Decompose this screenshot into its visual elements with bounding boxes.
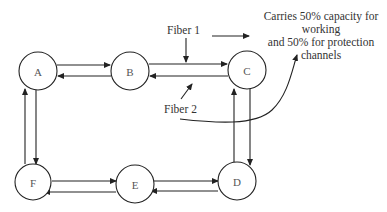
node-c-label: C bbox=[243, 65, 250, 77]
node-f-label: F bbox=[30, 177, 36, 189]
fiber1-label: Fiber 1 bbox=[167, 24, 200, 36]
annotation-line-3: and 50% for protection bbox=[262, 36, 380, 49]
node-e-label: E bbox=[132, 179, 139, 191]
annotation-line-4: channels bbox=[262, 49, 380, 62]
fiber2-pointer-arrow bbox=[181, 84, 192, 99]
node-a-label: A bbox=[34, 66, 42, 78]
annotation-line-2: working bbox=[262, 23, 380, 36]
fiber2-label: Fiber 2 bbox=[164, 103, 197, 115]
node-b-label: B bbox=[126, 66, 133, 78]
capacity-annotation: Carries 50% capacity for working and 50%… bbox=[262, 10, 380, 62]
node-d-label: D bbox=[233, 176, 241, 188]
annotation-line-1: Carries 50% capacity for bbox=[262, 10, 380, 23]
